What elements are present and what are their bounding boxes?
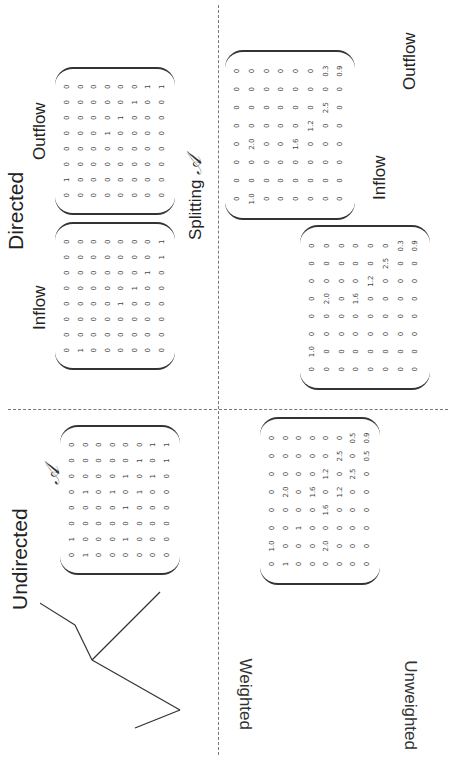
matrix-cell: 0 <box>61 141 75 157</box>
matrix-cell: 0 <box>93 500 107 516</box>
matrix-cell: 0 <box>134 532 148 548</box>
matrix-cell: 0 <box>93 547 107 563</box>
matrix-cell: 0 <box>320 190 335 208</box>
matrix-cell: 0 <box>115 327 129 343</box>
matrix-cell: 0 <box>88 296 102 312</box>
matrix-cell: 0 <box>88 327 102 343</box>
matrix-cell: 0 <box>347 447 361 465</box>
matrix-cell: 0 <box>320 135 335 153</box>
matrix-cell: 0 <box>66 516 80 532</box>
matrix-cell: 0 <box>142 141 156 157</box>
matrix-cell: 0 <box>147 516 161 532</box>
matrix-cell: 0 <box>129 265 143 281</box>
matrix-cell: 0 <box>66 500 80 516</box>
matrix-cell: 0 <box>336 272 351 290</box>
matrix-cell: 0 <box>395 325 410 343</box>
matrix-cell: 0 <box>409 290 424 308</box>
matrix-cell: 0 <box>305 62 320 80</box>
matrix-cell: 0 <box>102 281 116 297</box>
matrix-cell: 0 <box>266 519 280 537</box>
matrix-cell: 1 <box>120 469 134 485</box>
matrix-cell: 0 <box>380 360 395 378</box>
matrix-cell: 0 <box>129 172 143 188</box>
matrix-cell: 0 <box>75 79 89 95</box>
matrix-cell: 0 <box>409 272 424 290</box>
matrix-cell: 0 <box>156 281 170 297</box>
matrix-weighted-inflow: 000000001.0002.0000000000000000000000001… <box>225 50 355 220</box>
matrix-cell: 0 <box>66 484 80 500</box>
matrix-cell: 0 <box>275 117 290 135</box>
matrix-cell: 0 <box>261 172 276 190</box>
matrix-cell: 0 <box>80 469 94 485</box>
title-undirected: Undirected <box>8 508 32 610</box>
matrix-cell: 0 <box>266 483 280 501</box>
matrix-cell: 0 <box>88 343 102 359</box>
matrix-cell: 0 <box>246 117 261 135</box>
matrix-cell: 0 <box>334 501 348 519</box>
matrix-cell: 0 <box>266 447 280 465</box>
matrix-cell: 0 <box>115 281 129 297</box>
matrix-cell: 0 <box>120 547 134 563</box>
matrix-cell: 0 <box>66 437 80 453</box>
matrix-cell: 0 <box>361 483 375 501</box>
matrix-cell: 0 <box>161 484 175 500</box>
matrix-cell: 0 <box>75 327 89 343</box>
matrix-cell: 0 <box>290 190 305 208</box>
matrix-cell: 0 <box>321 343 336 361</box>
matrix-cell: 0 <box>156 157 170 173</box>
matrix-cell: 0 <box>275 153 290 171</box>
matrix-cell: 0 <box>156 95 170 111</box>
matrix-cell: 0 <box>88 110 102 126</box>
matrix-cell: 0 <box>80 500 94 516</box>
vertical-divider <box>8 409 448 410</box>
matrix-cell: 0 <box>142 312 156 328</box>
label-inflow: Inflow <box>30 286 50 330</box>
matrix-cell: 0 <box>350 360 365 378</box>
matrix-cell: 0 <box>115 95 129 111</box>
matrix-cell: 0 <box>88 79 102 95</box>
matrix-cell: 0 <box>275 99 290 117</box>
matrix-cell: 0 <box>290 153 305 171</box>
matrix-cell: 1.6 <box>290 135 305 153</box>
matrix-cell: 0 <box>102 312 116 328</box>
matrix-cell: 0 <box>134 500 148 516</box>
matrix-cell: 0.9 <box>334 62 349 80</box>
matrix-cell: 0 <box>293 483 307 501</box>
matrix-weighted-outflow: 01.000000000002.00000000000000001.600000… <box>300 225 430 390</box>
matrix-cell: 0 <box>142 95 156 111</box>
matrix-cell: 0 <box>361 537 375 555</box>
matrix-cell: 0 <box>334 80 349 98</box>
matrix-cell: 0 <box>306 308 321 326</box>
matrix-cell: 0 <box>395 308 410 326</box>
matrix-cell: 0 <box>107 469 121 485</box>
matrix-cell: 0 <box>321 255 336 273</box>
matrix-cell: 0 <box>129 188 143 204</box>
matrix-cell: 0 <box>305 190 320 208</box>
title-directed: Directed <box>4 172 28 250</box>
matrix-cell: 1.0 <box>306 343 321 361</box>
matrix-cell: 0 <box>156 110 170 126</box>
matrix-cell: 1.6 <box>320 501 334 519</box>
splitting-label-top: Splitting 𝒜 <box>182 156 206 240</box>
matrix-cell: 1 <box>161 437 175 453</box>
matrix-cell: 0 <box>66 469 80 485</box>
matrix-cell: 1 <box>107 484 121 500</box>
matrix-cell: 2.5 <box>380 255 395 273</box>
matrix-cell: 0 <box>290 80 305 98</box>
matrix-cell: 0 <box>102 296 116 312</box>
matrix-cell: 1 <box>147 469 161 485</box>
matrix-cell: 0 <box>306 360 321 378</box>
matrix-cell: 0 <box>102 250 116 266</box>
matrix-cell: 0 <box>305 135 320 153</box>
matrix-cell: 0 <box>380 290 395 308</box>
matrix-cell: 0 <box>75 95 89 111</box>
matrix-cell: 0 <box>261 190 276 208</box>
matrix-cell: 0 <box>142 110 156 126</box>
matrix-cell: 0 <box>336 290 351 308</box>
matrix-cell: 0 <box>134 437 148 453</box>
matrix-cell: 0 <box>231 117 246 135</box>
matrix-cell: 0 <box>61 95 75 111</box>
matrix-cell: 1 <box>134 453 148 469</box>
matrix-cell: 1 <box>102 126 116 142</box>
matrix-cell: 1.6 <box>307 483 321 501</box>
